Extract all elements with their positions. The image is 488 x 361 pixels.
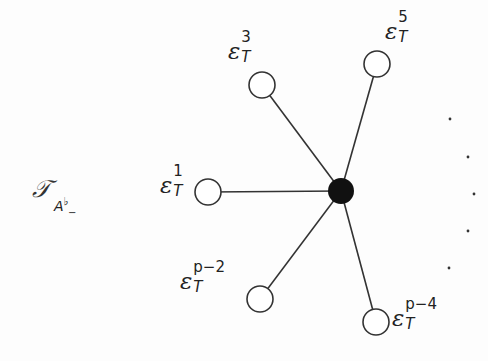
node-label-eps1: ε1T [160,174,186,197]
ellipsis-dot [449,118,452,121]
edge-epsp2 [260,191,341,299]
minus-sign: − [68,207,76,218]
label-subscript: T [173,184,182,199]
epsilon-symbol: ε [228,38,240,64]
edge-epsp4 [341,191,376,322]
graph-title-label: 𝒯 A♭ − [32,175,50,203]
center-node [328,178,354,204]
label-subscript: T [193,280,202,295]
label-superscript: p−4 [405,297,437,312]
epsilon-symbol: ε [160,172,172,198]
label-superscript: 5 [398,10,408,25]
label-superscript: 1 [173,164,183,179]
edge-eps3 [262,85,341,191]
edge-eps1 [208,191,341,192]
leaf-node-epsp4 [363,309,389,335]
node-label-eps5: ε5T [385,20,411,43]
ellipsis-dot [467,230,470,233]
label-subscript: T [241,50,250,65]
ellipsis-dot [448,267,451,270]
ellipsis-dot [473,193,476,196]
node-label-epsp2: εp−2T [180,270,232,293]
epsilon-symbol: ε [392,305,404,331]
title-subscript: A♭ − [54,195,69,214]
leaf-node-eps5 [364,51,390,77]
leaf-node-eps1 [195,179,221,205]
leaf-node-eps3 [249,72,275,98]
edge-eps5 [341,64,377,191]
calligraphic-t-symbol: 𝒯 [32,175,50,203]
label-subscript: T [405,317,414,332]
epsilon-symbol: ε [385,18,397,44]
leaf-node-epsp2 [247,286,273,312]
label-superscript: 3 [241,30,251,45]
node-label-epsp4: εp−4T [392,307,444,330]
label-subscript: T [398,30,407,45]
ellipsis-dot [467,156,470,159]
label-superscript: p−2 [193,260,225,275]
node-label-eps3: ε3T [228,40,254,63]
epsilon-symbol: ε [180,268,192,294]
